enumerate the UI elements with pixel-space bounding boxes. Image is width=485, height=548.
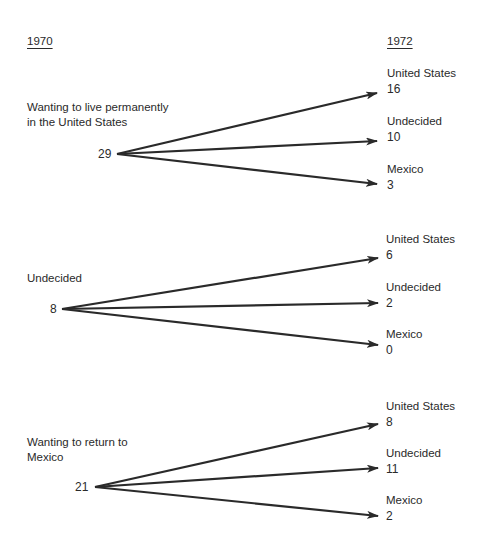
group-label-line: Mexico: [27, 450, 63, 464]
group-count: 21: [75, 480, 88, 494]
arrow-29-to-mexico: [117, 154, 377, 184]
outcome-label-undecided: Undecided: [386, 280, 441, 294]
group-label-line: in the United States: [27, 115, 127, 129]
group-label-line: Wanting to live permanently: [27, 100, 168, 114]
outcome-value-mexico: 2: [386, 509, 393, 523]
outcome-value-us: 16: [387, 82, 400, 96]
group-count: 8: [50, 302, 57, 316]
outcome-value-us: 6: [386, 248, 393, 262]
outcome-value-mexico: 0: [386, 343, 393, 357]
outcome-label-undecided: Undecided: [386, 446, 441, 460]
outcome-value-undecided: 11: [386, 462, 398, 476]
group-label-line: Undecided: [27, 271, 82, 285]
group-label-line: Wanting to return to: [27, 435, 128, 449]
outcome-value-us: 8: [386, 415, 393, 429]
outcome-value-mexico: 3: [387, 178, 394, 192]
outcome-label-mexico: Mexico: [386, 493, 422, 507]
group-2-arrows: [62, 258, 378, 345]
group-3-arrows: [95, 424, 378, 516]
arrow-21-to-mexico: [95, 487, 378, 516]
outcome-label-us: United States: [386, 399, 455, 413]
outcome-value-undecided: 2: [386, 296, 393, 310]
outcome-label-undecided: Undecided: [387, 114, 442, 128]
arrow-29-to-undecided: [117, 141, 377, 154]
outcome-value-undecided: 10: [387, 130, 400, 144]
outcome-label-mexico: Mexico: [387, 162, 423, 176]
arrow-8-to-us: [62, 258, 378, 309]
outcome-label-us: United States: [386, 232, 455, 246]
outcome-label-mexico: Mexico: [386, 327, 422, 341]
arrow-8-to-mexico: [62, 309, 378, 345]
arrow-8-to-undecided: [62, 303, 378, 309]
group-count: 29: [98, 147, 111, 161]
outcome-label-us: United States: [387, 66, 456, 80]
